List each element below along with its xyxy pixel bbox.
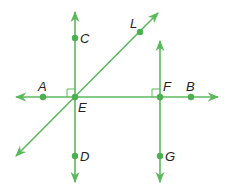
point-G [157,153,163,159]
point-B [188,94,194,100]
label-D: D [80,149,89,164]
point-F [157,94,163,100]
point-L [137,29,143,35]
point-D [72,153,78,159]
label-E: E [78,100,87,115]
label-G: G [165,149,175,164]
geometry-diagram: A B C D E F G L [0,0,229,194]
point-C [72,35,78,41]
point-A [40,94,46,100]
label-B: B [186,79,195,94]
diagram-canvas: A B C D E F G L [0,0,229,194]
label-C: C [80,31,90,46]
label-A: A [37,79,47,94]
label-L: L [130,16,137,31]
label-F: F [163,79,172,94]
